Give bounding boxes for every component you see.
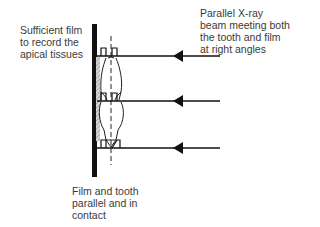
arrow-left-icon (173, 50, 183, 62)
xray-beam-lower (97, 142, 220, 154)
film-hatched-area (96, 57, 100, 141)
arrow-left-icon (173, 95, 183, 107)
label-sufficient-film: Sufficient film to record the apical tis… (20, 24, 83, 60)
label-parallel-xray-beam: Parallel X-ray beam meeting both the too… (200, 7, 290, 55)
arrow-left-icon (173, 142, 183, 154)
xray-beam-middle (97, 95, 220, 107)
label-film-tooth-contact: Film and tooth parallel and in contact (72, 185, 139, 221)
